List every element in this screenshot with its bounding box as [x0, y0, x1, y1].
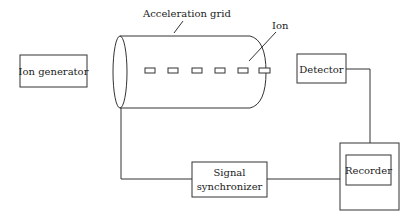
detector-block: Detector — [297, 54, 346, 83]
ion-generator-label: Ion generator — [19, 66, 89, 77]
detector-recorder-wire — [346, 69, 370, 143]
ion-leader — [249, 32, 276, 61]
ion-generator-block: Ion generator — [19, 55, 89, 87]
acceleration-grid-leader — [174, 21, 183, 33]
tube-synchronizer-wire — [121, 108, 192, 179]
ion-packets — [145, 68, 270, 73]
signal-synchronizer-block: Signal synchronizer — [192, 162, 267, 197]
recorder-label: Recorder — [345, 165, 392, 176]
time-of-flight-diagram: Ion generator Acceleration grid Ion Dete… — [0, 0, 419, 220]
acceleration-grid-label: Acceleration grid — [142, 8, 231, 19]
signal-synchronizer-label-line2: synchronizer — [197, 181, 263, 192]
detector-label: Detector — [299, 64, 344, 75]
ion-label: Ion — [272, 20, 289, 31]
signal-synchronizer-label-line1: Signal — [213, 167, 245, 178]
acceleration-grid-tube — [113, 36, 270, 108]
recorder-block: Recorder — [340, 143, 399, 210]
